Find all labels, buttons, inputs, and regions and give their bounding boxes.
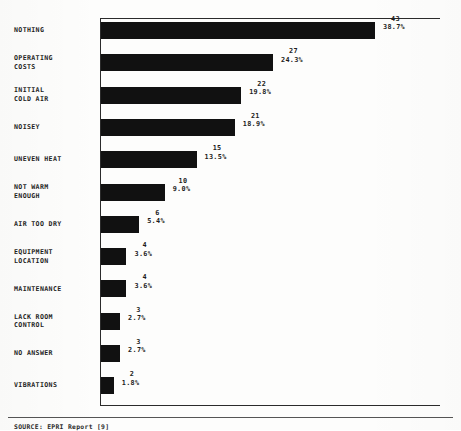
bar-category-label-line1: NOTHING [14,26,44,34]
bar-category-label: UNEVEN HEAT [14,155,100,164]
bar-category-label: NOT WARMENOUGH [14,183,100,200]
bar-category-label-line2: COLD AIR [14,95,100,104]
bar-percent-label: 13.5% [205,153,227,161]
bar-count-label: 6 [147,209,165,217]
bar-category-label: LACK ROOMCONTROL [14,313,100,330]
bar-category-label: AIR TOO DRY [14,220,100,229]
bar-category-label-line1: UNEVEN HEAT [14,155,62,163]
bar-category-label-line2: ENOUGH [14,192,100,201]
bar [101,119,235,136]
bar-value-labels: 1513.5% [205,144,227,161]
bar-value-labels: 32.7% [128,338,146,355]
bar-count-label: 4 [134,273,152,281]
bar-value-labels: 109.0% [173,177,191,194]
bar-percent-label: 38.7% [383,23,405,31]
bar-category-label: VIBRATIONS [14,381,100,390]
bar-value-labels: 2724.3% [281,47,303,64]
bar-category-label: EQUIPMENTLOCATION [14,248,100,265]
bar-value-labels: 43.6% [134,241,152,258]
bar [101,151,197,168]
bar [101,54,273,71]
bar-count-label: 43 [383,15,405,23]
bar [101,280,126,297]
bar-percent-label: 3.6% [134,250,152,258]
bar-category-label-line1: VIBRATIONS [14,381,57,389]
bar [101,248,126,265]
bar-category-label-line1: OPERATING [14,54,53,62]
bar-row: UNEVEN HEAT1513.5% [0,144,461,176]
bar-percent-label: 2.7% [128,346,146,354]
bar-row: NOISEY2118.9% [0,112,461,144]
bar-category-label-line1: INITIAL [14,86,44,94]
bar-percent-label: 19.8% [249,88,271,96]
bar-percent-label: 18.9% [243,120,265,128]
bar-row: NOTHING4338.7% [0,15,461,47]
bar-value-labels: 65.4% [147,209,165,226]
bar-category-label: INITIALCOLD AIR [14,86,100,103]
bar-category-label-line1: MAINTENANCE [14,285,62,293]
bar [101,313,120,330]
bar-percent-label: 2.7% [128,314,146,322]
bar-category-label-line2: CONTROL [14,321,100,330]
bar-value-labels: 2219.8% [249,80,271,97]
bar [101,22,375,39]
bar-category-label: NOTHING [14,26,100,35]
bar-value-labels: 32.7% [128,306,146,323]
footer-divider [8,417,453,418]
bar-percent-label: 3.6% [134,282,152,290]
bar-count-label: 10 [173,177,191,185]
bar-value-labels: 43.6% [134,273,152,290]
bar-row: EQUIPMENTLOCATION43.6% [0,241,461,273]
bar-count-label: 3 [128,306,146,314]
bar-count-label: 22 [249,80,271,88]
bar-category-label: OPERATINGCOSTS [14,54,100,71]
bar-row: LACK ROOMCONTROL32.7% [0,306,461,338]
bar-row: INITIALCOLD AIR2219.8% [0,80,461,112]
bar-count-label: 27 [281,47,303,55]
bar-category-label-line2: COSTS [14,63,100,72]
bar-value-labels: 21.8% [122,370,140,387]
bar-count-label: 15 [205,144,227,152]
bar-category-label: NOISEY [14,123,100,132]
bar [101,184,165,201]
bar-category-label-line1: AIR TOO DRY [14,220,62,228]
bar-count-label: 2 [122,370,140,378]
bar-row: MAINTENANCE43.6% [0,273,461,305]
bar-count-label: 3 [128,338,146,346]
bar-category-label-line1: NOISEY [14,123,40,131]
bar-category-label: NO ANSWER [14,349,100,358]
bar-category-label-line1: EQUIPMENT [14,248,53,256]
bar [101,87,241,104]
bar-percent-label: 9.0% [173,185,191,193]
bar-count-label: 21 [243,112,265,120]
bar-value-labels: 4338.7% [383,15,405,32]
bar [101,345,120,362]
bar-category-label-line1: LACK ROOM [14,313,53,321]
bar-value-labels: 2118.9% [243,112,265,129]
bar [101,377,114,394]
source-note: SOURCE: EPRI Report [9] [14,423,109,431]
bar-percent-label: 24.3% [281,56,303,64]
bar-row: VIBRATIONS21.8% [0,370,461,402]
bar-category-label-line1: NO ANSWER [14,349,53,357]
bar-percent-label: 1.8% [122,379,140,387]
bar-row: OPERATINGCOSTS2724.3% [0,47,461,79]
bar-category-label-line2: LOCATION [14,257,100,266]
bar-category-label: MAINTENANCE [14,285,100,294]
bar-row: NOT WARMENOUGH109.0% [0,177,461,209]
bar-row: AIR TOO DRY65.4% [0,209,461,241]
bar-count-label: 4 [134,241,152,249]
bar-row: NO ANSWER32.7% [0,338,461,370]
bar-category-label-line1: NOT WARM [14,183,49,191]
bar-percent-label: 5.4% [147,217,165,225]
bar [101,216,139,233]
